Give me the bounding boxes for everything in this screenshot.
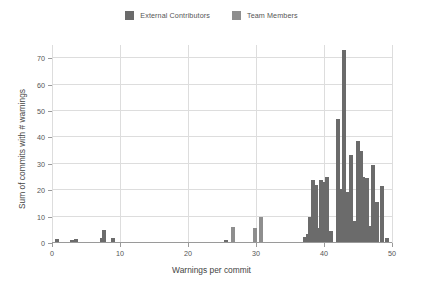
x-tick-mark	[188, 243, 189, 247]
legend-label-team-members: Team Members	[247, 11, 298, 20]
x-tick-label: 40	[320, 249, 328, 258]
x-tick-label: 30	[252, 249, 260, 258]
chart-legend: External Contributors Team Members	[0, 11, 423, 20]
y-tick-label: 20	[37, 186, 45, 195]
legend-entry-team-members[interactable]: Team Members	[232, 11, 298, 20]
x-tick-mark	[52, 243, 53, 247]
y-axis-title: Sum of commits with # warnings	[17, 64, 27, 234]
chart-container: External Contributors Team Members 01020…	[0, 0, 423, 289]
x-tick-label: 0	[50, 249, 54, 258]
x-tick-mark	[392, 243, 393, 247]
y-tick-label: 10	[37, 212, 45, 221]
bar[interactable]	[231, 227, 235, 243]
legend-entry-external-contributors[interactable]: External Contributors	[125, 11, 210, 20]
y-tick-label: 0	[41, 239, 45, 248]
y-tick-label: 50	[37, 107, 45, 116]
plot-area	[52, 45, 392, 243]
legend-label-external-contributors: External Contributors	[140, 11, 210, 20]
bar[interactable]	[253, 228, 257, 243]
x-tick-mark	[256, 243, 257, 247]
y-tick-label: 60	[37, 80, 45, 89]
gridline-vertical	[392, 45, 393, 243]
y-tick-label: 30	[37, 159, 45, 168]
bar[interactable]	[375, 202, 379, 243]
x-tick-label: 10	[116, 249, 124, 258]
x-tick-mark	[120, 243, 121, 247]
bars-layer	[52, 45, 392, 243]
bar[interactable]	[380, 186, 384, 243]
y-tick-label: 70	[37, 54, 45, 63]
x-axis-title: Warnings per commit	[0, 265, 423, 275]
x-tick-mark	[324, 243, 325, 247]
legend-swatch-team-members	[232, 11, 241, 20]
y-tick-label: 40	[37, 133, 45, 142]
x-axis-ticks: 01020304050	[52, 243, 392, 263]
x-tick-label: 20	[184, 249, 192, 258]
x-tick-label: 50	[388, 249, 396, 258]
bar[interactable]	[259, 217, 263, 243]
legend-swatch-external-contributors	[125, 11, 134, 20]
